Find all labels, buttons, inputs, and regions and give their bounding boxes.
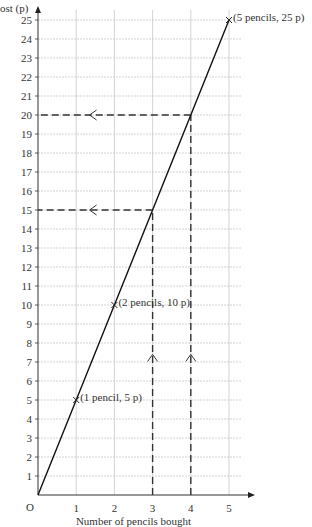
data-line — [38, 17, 232, 495]
point-label: (1 pencil, 5 p) — [80, 391, 142, 404]
y-tick-label: 6 — [27, 375, 33, 387]
y-tick-label: 5 — [27, 394, 33, 406]
y-tick-label: 8 — [27, 337, 33, 349]
y-tick-label: 1 — [27, 470, 33, 482]
y-tick-label: 4 — [27, 413, 33, 425]
y-tick-label: 11 — [21, 280, 32, 292]
y-tick-label: 15 — [21, 204, 33, 216]
y-tick-label: 20 — [21, 109, 33, 121]
y-tick-label: 7 — [27, 356, 33, 368]
y-tick-label: 22 — [21, 71, 32, 83]
y-tick-label: 21 — [21, 90, 32, 102]
y-tick-label: 9 — [27, 318, 33, 330]
y-tick-label: 16 — [21, 185, 33, 197]
y-tick-label: 14 — [21, 223, 33, 235]
x-axis-arrow-icon — [248, 492, 255, 498]
cost-line — [38, 20, 229, 495]
x-tick-label: 1 — [73, 502, 79, 514]
y-tick-label: 13 — [21, 242, 33, 254]
x-tick-label: 3 — [150, 502, 156, 514]
y-tick-label: 10 — [21, 299, 33, 311]
x-tick-label: 2 — [112, 502, 118, 514]
y-tick-label: 3 — [27, 432, 33, 444]
x-tick-label: 4 — [188, 502, 194, 514]
y-axis-label: ost (p) — [0, 2, 29, 15]
y-axis-arrow-icon — [35, 6, 41, 13]
x-axis-label: Number of pencils bought — [76, 515, 191, 527]
y-tick-label: 23 — [21, 52, 33, 64]
origin-label: O — [26, 501, 34, 513]
y-tick-label: 24 — [21, 33, 33, 45]
y-tick-label: 25 — [21, 14, 33, 26]
grid-lines — [38, 10, 241, 495]
y-tick-label: 18 — [21, 147, 33, 159]
axes — [35, 6, 255, 498]
cost-graph: 1234567891011121314151617181920212223242… — [0, 0, 312, 527]
y-tick-label: 17 — [21, 166, 33, 178]
x-tick-label: 5 — [226, 502, 232, 514]
point-label: (2 pencils, 10 p) — [118, 296, 190, 309]
point-label: (5 pencils, 25 p) — [233, 11, 305, 24]
y-tick-label: 19 — [21, 128, 33, 140]
y-tick-label: 12 — [21, 261, 32, 273]
y-tick-label: 2 — [27, 451, 33, 463]
